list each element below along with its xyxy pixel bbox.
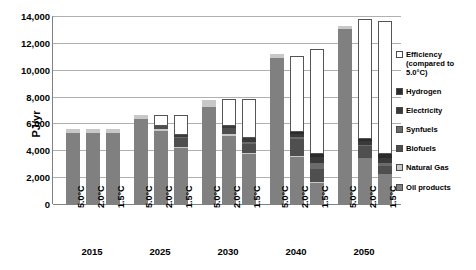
bar-segment-biofuels [378,166,392,174]
x-scenario-label: 2.0°C [96,185,106,208]
legend-swatch-icon [396,145,403,152]
bar-segment-oil [270,58,284,204]
x-scenario-label: 1.5°C [184,185,194,208]
x-scenario-label: 5.0°C [280,185,290,208]
bar-segment-natural [202,100,216,107]
x-scenario-label: 5.0°C [212,185,222,208]
legend-swatch-icon [396,107,403,114]
x-group-label: 2050 [331,246,397,257]
y-tick-label: 8,000 [8,91,50,102]
bar-2050-5-0C[interactable] [338,26,352,204]
legend-label: Electricity [406,106,442,115]
legend-label: Biofuels [406,144,436,153]
x-scenario-label: 5.0°C [348,185,358,208]
legend-oil-products[interactable]: Oil products [396,183,476,192]
bar-segment-biofuels [242,144,256,153]
bar-segment-efficiency [154,115,168,125]
legend-swatch-icon [396,184,403,191]
chart-legend: Efficiency (compared to 5.0°C)HydrogenEl… [396,50,476,202]
y-axis-tick-labels: 02,0004,0006,0008,00010,00012,00014,000 [0,0,50,270]
x-scenario-label: 2.0°C [232,185,242,208]
bar-2050-1-5C[interactable] [378,21,392,204]
chart-container: PJ/yr 02,0004,0006,0008,00010,00012,0001… [0,0,476,270]
y-tick-label: 12,000 [8,37,50,48]
legend-label: Oil products [406,183,451,192]
y-tick-label: 4,000 [8,145,50,156]
x-scenario-label: 2.0°C [300,185,310,208]
legend-swatch-icon [396,126,403,133]
bar-2040-2-0C[interactable] [290,56,304,204]
x-group-label: 2040 [263,246,329,257]
x-group-label: 2030 [195,246,261,257]
bar-segment-efficiency [174,115,188,134]
plot-area [52,16,401,204]
y-tick-label: 2,000 [8,172,50,183]
x-scenario-label: 2.0°C [368,185,378,208]
bar-segment-biofuels [310,169,324,182]
bar-segment-oil [338,29,352,204]
x-scenario-label: 5.0°C [144,185,154,208]
bar-2040-5-0C[interactable] [270,54,284,204]
bar-segment-biofuels [174,138,188,147]
x-scenario-label: 1.5°C [320,185,330,208]
x-scenario-label: 2.0°C [164,185,174,208]
bar-segment-efficiency [290,56,304,133]
y-tick-label: 6,000 [8,118,50,129]
legend-label: Efficiency (compared to 5.0°C) [406,50,476,78]
bar-segment-biofuels [290,139,304,156]
legend-swatch-icon [396,51,403,58]
legend-hydrogen[interactable]: Hydrogen [396,87,476,96]
legend-synfuels[interactable]: Synfuels [396,125,476,134]
y-tick-label: 10,000 [8,64,50,75]
legend-electricity[interactable]: Electricity [396,106,476,115]
legend-label: Synfuels [406,125,438,134]
bar-segment-efficiency [378,21,392,155]
bar-2040-1-5C[interactable] [310,49,324,204]
y-tick-label: 0 [8,199,50,210]
legend-swatch-icon [396,88,403,95]
bar-segment-biofuels [358,146,372,157]
x-scenario-label: 1.5°C [116,185,126,208]
legend-label: Natural Gas [406,163,449,172]
legend-swatch-icon [396,164,403,171]
y-tick-label: 14,000 [8,11,50,22]
x-group-label: 2025 [127,246,193,257]
bar-segment-efficiency [222,99,236,126]
x-scenario-label: 5.0°C [76,185,86,208]
x-group-label: 2015 [59,246,125,257]
legend-natural-gas[interactable]: Natural Gas [396,163,476,172]
bar-segment-efficiency [358,19,372,139]
legend-efficiency[interactable]: Efficiency (compared to 5.0°C) [396,50,476,78]
bar-2050-2-0C[interactable] [358,19,372,204]
legend-biofuels[interactable]: Biofuels [396,144,476,153]
bar-segment-efficiency [310,49,324,154]
legend-label: Hydrogen [406,87,441,96]
bar-segment-efficiency [242,99,256,137]
x-scenario-label: 1.5°C [252,185,262,208]
gridline [53,16,401,17]
